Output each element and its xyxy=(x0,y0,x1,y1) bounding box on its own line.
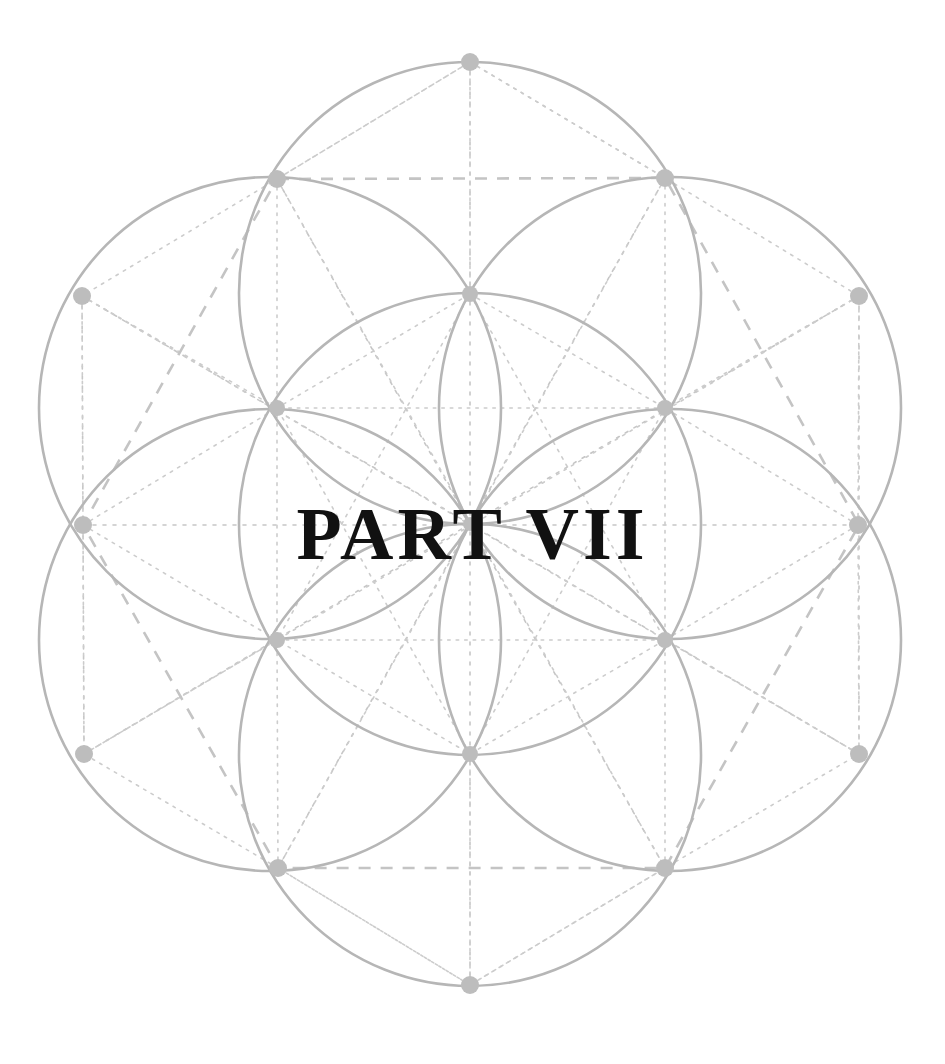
node-center xyxy=(463,517,477,531)
node-inner xyxy=(269,400,285,416)
web-l-2 xyxy=(83,525,277,640)
node-outer xyxy=(268,170,286,188)
part-divider-page: PART VII xyxy=(0,0,945,1064)
node-inner xyxy=(657,400,673,416)
inner-triangle-down xyxy=(277,408,665,754)
node-outer xyxy=(269,859,287,877)
node-outer xyxy=(850,745,868,763)
node-inner xyxy=(269,632,285,648)
node-outer xyxy=(74,516,92,534)
node-inner xyxy=(462,746,478,762)
web-ll-2 xyxy=(277,640,278,868)
node-inner xyxy=(462,286,478,302)
node-inner xyxy=(657,632,673,648)
node-outer xyxy=(656,169,674,187)
web-t-2 xyxy=(470,62,665,178)
seed-of-life-ornament xyxy=(0,0,945,1064)
node-outer xyxy=(656,859,674,877)
node-outer xyxy=(850,287,868,305)
web-b-2 xyxy=(470,868,665,985)
node-outer xyxy=(461,53,479,71)
node-outer xyxy=(75,745,93,763)
inner-triangle-up xyxy=(277,294,665,640)
web-l-1 xyxy=(83,408,277,525)
node-outer xyxy=(461,976,479,994)
node-outer xyxy=(73,287,91,305)
node-outer xyxy=(849,516,867,534)
